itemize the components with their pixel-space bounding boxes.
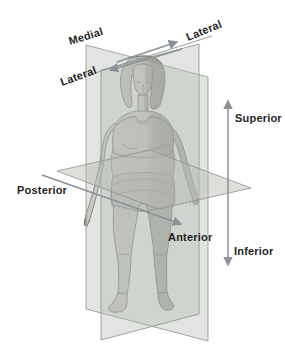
diagram-canvas: Medial Lateral Lateral Superior Inferior… [0, 0, 285, 364]
inferior-label: Inferior [234, 245, 274, 257]
body-planes [57, 44, 251, 341]
medial-label: Medial [67, 25, 104, 47]
anterior-label: Anterior [168, 231, 213, 243]
lateral-top-right-label: Lateral [184, 18, 223, 43]
superior-label: Superior [235, 112, 282, 124]
posterior-label: Posterior [17, 184, 68, 196]
anatomy-directional-terms-diagram: Medial Lateral Lateral Superior Inferior… [0, 0, 285, 364]
